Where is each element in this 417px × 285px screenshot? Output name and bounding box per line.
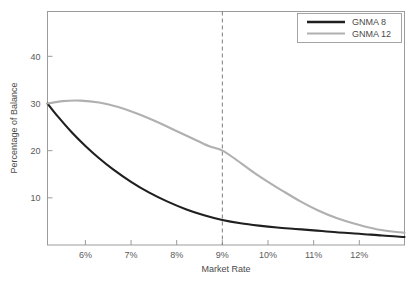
y-tick-label: 40 [30, 52, 40, 62]
x-tick-label: 9% [216, 250, 229, 260]
x-tick-label: 8% [170, 250, 183, 260]
y-tick-label: 30 [30, 99, 40, 109]
y-tick-label: 10 [30, 193, 40, 203]
x-tick-label: 11% [305, 250, 322, 260]
x-tick-label: 12% [350, 250, 368, 260]
legend-label: GNMA 8 [352, 17, 386, 27]
y-axis-title: Percentage of Balance [9, 82, 19, 173]
x-tick-label: 7% [125, 250, 138, 260]
x-tick-label: 6% [79, 250, 92, 260]
y-tick-label: 20 [30, 146, 40, 156]
legend-label: GNMA 12 [352, 29, 391, 39]
chart-figure: 6%7%8%9%10%11%12% 10203040 Market Rate P… [0, 0, 417, 285]
x-axis-title: Market Rate [201, 264, 250, 274]
chart-legend: GNMA 8GNMA 12 [298, 14, 402, 43]
x-tick-label: 10% [259, 250, 277, 260]
line-chart: 6%7%8%9%10%11%12% 10203040 Market Rate P… [0, 0, 417, 285]
